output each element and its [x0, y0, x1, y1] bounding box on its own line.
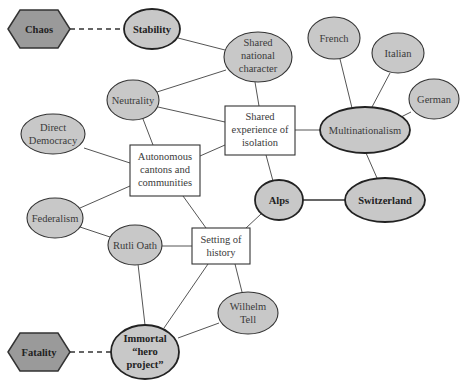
- edge-cantons-experience: [200, 145, 225, 156]
- node-federalism: Federalism: [27, 198, 83, 238]
- node-label-line: Shared: [243, 37, 273, 48]
- node-label: German: [417, 94, 452, 105]
- node-chaos: Chaos: [8, 10, 70, 48]
- edge-cantons-history: [183, 196, 206, 228]
- node-label: French: [319, 33, 349, 44]
- edge-multi-switzerland: [366, 153, 377, 178]
- node-label-line: national: [241, 50, 275, 61]
- node-autonomous-cantons: Autonomous cantons and communities: [130, 145, 200, 196]
- node-german: German: [409, 79, 459, 119]
- edge-stability-character: [178, 38, 225, 50]
- edge-wilhelm-immortal: [178, 323, 219, 338]
- edge-history-wilhelm: [235, 264, 242, 292]
- node-label-line: Autonomous: [138, 151, 192, 162]
- node-direct-democracy: Direct Democracy: [21, 114, 85, 154]
- edge-rutli-immortal: [138, 264, 145, 325]
- node-shared-national-character: Shared national character: [224, 32, 292, 82]
- edge-italian-multi: [372, 73, 390, 107]
- node-setting-of-history: Setting of history: [192, 228, 250, 264]
- node-neutrality: Neutrality: [107, 80, 159, 120]
- node-label-line: Wilhelm: [230, 301, 266, 312]
- node-shared-experience-of-isolation: Shared experience of isolation: [225, 106, 295, 155]
- node-label-line: Tell: [240, 314, 256, 325]
- node-label: Multinationalism: [329, 125, 401, 136]
- node-label: Fatality: [22, 347, 58, 358]
- edge-federalism-cantons: [80, 186, 130, 208]
- node-label: Stability: [133, 24, 172, 35]
- node-label-line: experience of: [232, 124, 289, 135]
- node-alps: Alps: [255, 180, 303, 220]
- node-label: Italian: [385, 48, 413, 59]
- edge-neutrality-experience: [158, 107, 225, 122]
- edge-history-immortal: [164, 264, 208, 328]
- edge-neutrality-character: [157, 70, 226, 92]
- node-rutli-oath: Rutli Oath: [108, 225, 162, 265]
- node-label-line: cantons and: [140, 164, 191, 175]
- node-label-line: Democracy: [29, 135, 78, 146]
- edge-neutrality-cantons: [143, 119, 153, 145]
- edge-alps-history: [246, 214, 261, 228]
- node-switzerland: Switzerland: [345, 178, 425, 222]
- node-wilhelm-tell: Wilhelm Tell: [218, 292, 278, 334]
- node-label: Federalism: [32, 213, 79, 224]
- node-french: French: [308, 17, 360, 59]
- ellipse-shape: [21, 114, 85, 154]
- node-italian: Italian: [372, 33, 424, 73]
- concept-map: Chaos Fatality Stability Shared national…: [0, 0, 468, 389]
- node-label-line: Shared: [245, 111, 275, 122]
- node-label-line: history: [206, 247, 236, 258]
- node-label-line: Immortal: [123, 333, 166, 344]
- node-label: Rutli Oath: [113, 240, 158, 251]
- node-label-line: project”: [126, 359, 163, 370]
- ellipse-shape: [218, 292, 278, 334]
- node-label-line: character: [239, 63, 278, 74]
- node-multinationalism: Multinationalism: [320, 107, 410, 153]
- edge-experience-alps: [266, 155, 273, 181]
- node-immortal-hero-project: Immortal “hero project”: [111, 325, 179, 379]
- node-label-line: isolation: [242, 137, 279, 148]
- edge-french-multi: [340, 59, 352, 108]
- node-stability: Stability: [124, 9, 180, 49]
- node-label-line: Setting of: [200, 234, 242, 245]
- edge-democracy-cantons: [84, 148, 130, 163]
- node-label: Chaos: [25, 24, 53, 35]
- node-label-line: “hero: [132, 346, 157, 357]
- node-label: Neutrality: [112, 95, 155, 106]
- edge-federalism-rutli: [80, 227, 110, 237]
- node-label: Alps: [269, 195, 289, 206]
- node-label: Switzerland: [358, 195, 412, 206]
- node-label-line: Direct: [40, 122, 66, 133]
- edge-character-experience: [255, 82, 259, 106]
- node-fatality: Fatality: [8, 333, 70, 371]
- node-label-line: communities: [138, 177, 192, 188]
